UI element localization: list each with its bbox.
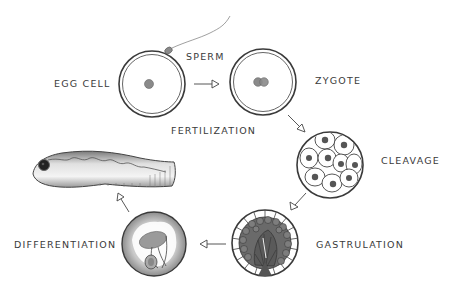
cleavage-label: CLEAVAGE xyxy=(381,155,440,166)
egg-cell-label: EGG CELL xyxy=(54,78,111,89)
larva-fish xyxy=(33,151,175,187)
embryo-development-diagram: EGG CELL SPERM FERTILIZATION ZYGOTE xyxy=(0,0,452,293)
differentiation-embryo xyxy=(122,212,186,276)
cleavage-embryo xyxy=(297,131,363,198)
sperm xyxy=(164,16,230,55)
fish-eye xyxy=(39,160,50,171)
zygote-pronucleus xyxy=(260,78,269,87)
egg-cell xyxy=(119,51,185,117)
arrow-differentiation-to-larva xyxy=(117,193,129,212)
gastrulation-label: GASTRULATION xyxy=(316,239,404,250)
arrow-egg-to-zygote xyxy=(194,80,219,88)
zygote-label: ZYGOTE xyxy=(315,75,361,86)
sperm-label: SPERM xyxy=(186,51,225,62)
arrow-zygote-to-cleavage xyxy=(288,115,305,132)
egg-nucleus xyxy=(145,80,154,89)
arrow-gastrulation-to-differentiation xyxy=(200,240,226,248)
arrow-cleavage-to-gastrulation xyxy=(290,193,306,210)
fertilization-label: FERTILIZATION xyxy=(171,125,256,136)
gastrulation-embryo xyxy=(231,208,299,277)
zygote xyxy=(230,49,296,115)
differentiation-label: DIFFERENTIATION xyxy=(14,239,116,250)
